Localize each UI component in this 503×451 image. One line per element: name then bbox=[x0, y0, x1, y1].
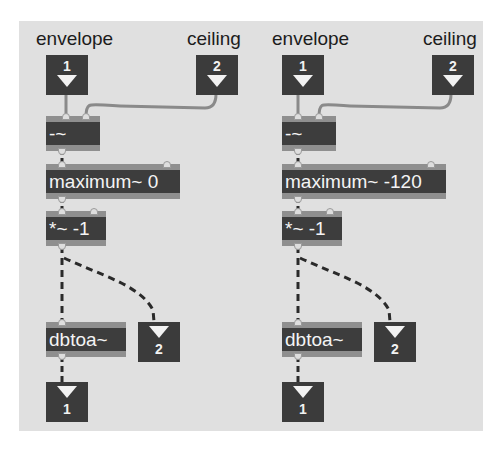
object-subtract[interactable]: -~ bbox=[282, 116, 336, 151]
object-inlet-port[interactable] bbox=[82, 113, 90, 120]
object-inlet-port[interactable] bbox=[58, 319, 66, 326]
inlet-2[interactable]: 2 bbox=[432, 55, 474, 95]
inlet-2[interactable]: 2 bbox=[196, 55, 238, 95]
object-inlet-port[interactable] bbox=[294, 161, 302, 168]
object-inlet-port[interactable] bbox=[315, 113, 323, 120]
inlet-label-envelope: envelope bbox=[272, 29, 349, 48]
object-subtract[interactable]: -~ bbox=[46, 116, 100, 151]
down-arrow-icon bbox=[385, 326, 405, 338]
object-dbtoa[interactable]: dbtoa~ bbox=[282, 322, 362, 357]
inlet-number: 1 bbox=[46, 59, 88, 73]
object-dbtoa[interactable]: dbtoa~ bbox=[46, 322, 126, 357]
outlet-1[interactable]: 1 bbox=[282, 382, 324, 422]
inlet-label-ceiling: ceiling bbox=[423, 29, 477, 48]
object-text: -~ bbox=[285, 123, 302, 144]
down-arrow-icon bbox=[149, 326, 169, 338]
down-arrow-icon bbox=[57, 75, 77, 87]
outlet-1[interactable]: 1 bbox=[46, 382, 88, 422]
object-text: maximum~ -120 bbox=[285, 171, 422, 192]
down-arrow-icon bbox=[207, 75, 227, 87]
outlet-number: 1 bbox=[46, 402, 88, 416]
inlet-label-envelope: envelope bbox=[36, 29, 113, 48]
object-text: dbtoa~ bbox=[49, 329, 108, 350]
object-inlet-port[interactable] bbox=[58, 161, 66, 168]
inlet-1[interactable]: 1 bbox=[282, 55, 324, 95]
inlet-number: 1 bbox=[282, 59, 324, 73]
outlet-number: 2 bbox=[374, 342, 416, 356]
object-inlet-port[interactable] bbox=[326, 208, 334, 215]
outlet-number: 2 bbox=[138, 342, 180, 356]
down-arrow-icon bbox=[57, 386, 77, 398]
object-inlet-port[interactable] bbox=[427, 161, 435, 168]
object-text: *~ -1 bbox=[285, 218, 326, 239]
inlet-label-ceiling: ceiling bbox=[187, 29, 241, 48]
inlet-number: 2 bbox=[432, 59, 474, 73]
inlet-number: 2 bbox=[196, 59, 238, 73]
object-multiply[interactable]: *~ -1 bbox=[282, 211, 342, 246]
object-maximum[interactable]: maximum~ 0 bbox=[46, 164, 180, 199]
object-inlet-port[interactable] bbox=[294, 319, 302, 326]
object-text: -~ bbox=[49, 123, 66, 144]
down-arrow-icon bbox=[293, 75, 313, 87]
outlet-2[interactable]: 2 bbox=[374, 322, 416, 362]
object-text: *~ -1 bbox=[49, 218, 90, 239]
outlet-number: 1 bbox=[282, 402, 324, 416]
inlet-1[interactable]: 1 bbox=[46, 55, 88, 95]
object-multiply[interactable]: *~ -1 bbox=[46, 211, 106, 246]
object-inlet-port[interactable] bbox=[62, 113, 70, 120]
outlet-2[interactable]: 2 bbox=[138, 322, 180, 362]
object-inlet-port[interactable] bbox=[163, 161, 171, 168]
object-inlet-port[interactable] bbox=[294, 113, 302, 120]
down-arrow-icon bbox=[293, 386, 313, 398]
down-arrow-icon bbox=[443, 75, 463, 87]
object-inlet-port[interactable] bbox=[90, 208, 98, 215]
object-text: dbtoa~ bbox=[285, 329, 344, 350]
object-text: maximum~ 0 bbox=[49, 171, 158, 192]
object-inlet-port[interactable] bbox=[58, 208, 66, 215]
object-maximum[interactable]: maximum~ -120 bbox=[282, 164, 446, 199]
object-inlet-port[interactable] bbox=[294, 208, 302, 215]
